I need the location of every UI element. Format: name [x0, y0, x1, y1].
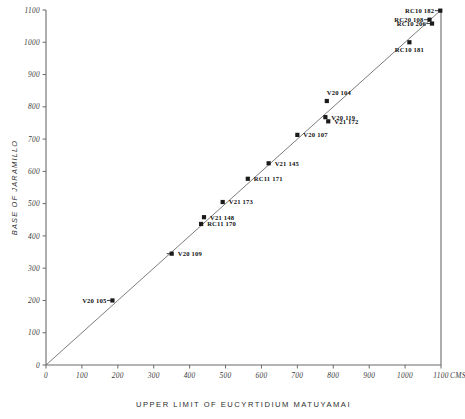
x-tick-label: 1000 [397, 371, 413, 380]
data-point-label: RC10 181 [395, 46, 424, 53]
y-tick-label: 0 [36, 361, 40, 370]
x-tick-label: 500 [220, 371, 232, 380]
regression-line [46, 10, 441, 365]
data-point-marker[interactable] [221, 200, 225, 204]
data-point-marker[interactable] [199, 222, 203, 226]
y-tick-label: 400 [28, 232, 40, 241]
data-point-marker[interactable] [326, 119, 330, 123]
data-point-label: V21 145 [275, 160, 300, 167]
y-tick-label: 1100 [25, 6, 40, 15]
data-point-label: V21 172 [334, 118, 359, 125]
x-axis-title: UPPER LIMIT OF EUCYRTIDIUM MATUYAMAI [136, 400, 351, 409]
data-point-marker[interactable] [430, 21, 434, 25]
data-point-marker[interactable] [325, 99, 329, 103]
data-point-label: RC11 170 [207, 220, 236, 227]
y-tick-label: 300 [27, 264, 40, 273]
data-point-marker[interactable] [323, 115, 327, 119]
x-tick-label: 0 [44, 371, 48, 380]
x-tick-label: 1100 [433, 371, 448, 380]
data-point-label: RC20 108 [394, 16, 424, 23]
y-tick-label: 500 [28, 199, 40, 208]
y-tick-label: 200 [28, 296, 40, 305]
x-tick-label: 300 [147, 371, 160, 380]
data-point-label: RC11 171 [254, 175, 283, 182]
data-point-label: RC10 182 [405, 7, 435, 14]
data-point-label: V21 148 [210, 214, 235, 221]
x-tick-label: 400 [184, 371, 196, 380]
y-tick-label: 900 [28, 70, 40, 79]
data-point-label: V21 173 [229, 198, 254, 205]
y-tick-label: 100 [28, 328, 40, 337]
y-axis-title: BASE OF JARAMILLO [10, 140, 19, 235]
data-point-label: V20 104 [327, 89, 352, 96]
data-point-marker[interactable] [438, 9, 442, 13]
data-point-marker[interactable] [427, 18, 431, 22]
data-point-marker[interactable] [202, 215, 206, 219]
data-point-marker[interactable] [295, 133, 299, 137]
data-point-marker[interactable] [407, 40, 411, 44]
x-tick-label: 700 [291, 371, 303, 380]
data-point-marker[interactable] [246, 177, 250, 181]
scatter-plot-figure: 0100200300400500600700800900100011000100… [0, 0, 465, 419]
x-tick-label: 200 [112, 371, 124, 380]
x-tick-label: 100 [76, 371, 88, 380]
plot-canvas: 0100200300400500600700800900100011000100… [0, 0, 465, 419]
data-point-marker[interactable] [110, 298, 114, 302]
x-tick-label: 900 [363, 371, 375, 380]
x-axis-unit: CMS [450, 371, 465, 380]
x-tick-label: 800 [327, 371, 339, 380]
data-point-label: V20 105 [82, 297, 107, 304]
y-tick-label: 1000 [24, 38, 40, 47]
data-point-label: V20 107 [303, 131, 328, 138]
data-point-marker[interactable] [267, 161, 271, 165]
y-tick-label: 700 [28, 135, 40, 144]
x-tick-label: 600 [255, 371, 267, 380]
y-tick-label: 800 [28, 102, 40, 111]
data-point-label: V20 109 [178, 250, 203, 257]
y-tick-label: 600 [28, 167, 40, 176]
